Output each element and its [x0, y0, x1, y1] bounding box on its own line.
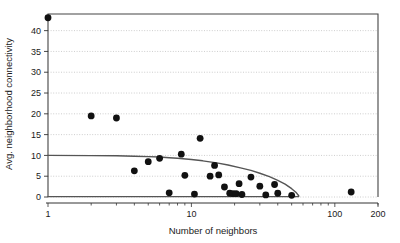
scatter-plot: 110100200 0510152025303540 Number of nei…: [0, 0, 400, 243]
x-tick-label-100: 100: [327, 209, 342, 219]
x-tick-label-10: 10: [186, 209, 196, 219]
data-point: [178, 151, 185, 158]
y-tick-label-5: 5: [36, 171, 41, 181]
data-point: [256, 183, 263, 190]
data-point: [221, 184, 228, 191]
data-point: [113, 115, 120, 122]
data-point: [211, 162, 218, 169]
data-point: [88, 113, 95, 120]
data-point: [181, 172, 188, 179]
plot-background: [0, 0, 400, 243]
chart-figure: 110100200 0510152025303540 Number of nei…: [0, 0, 400, 243]
x-tick-label-200: 200: [370, 209, 385, 219]
x-axis-title: Number of neighbors: [169, 225, 258, 236]
data-point: [131, 167, 138, 174]
data-point: [271, 181, 278, 188]
y-tick-label-0: 0: [36, 192, 41, 202]
y-axis-title: Avg. neighborhood connectivity: [3, 38, 14, 170]
data-point: [191, 191, 198, 198]
data-point: [348, 189, 355, 196]
y-tick-label-15: 15: [31, 130, 41, 140]
y-tick-label-20: 20: [31, 109, 41, 119]
data-point: [215, 172, 222, 179]
data-point: [45, 14, 52, 21]
y-tick-label-40: 40: [31, 26, 41, 36]
data-point: [262, 192, 269, 199]
data-point: [248, 174, 255, 181]
y-tick-label-30: 30: [31, 67, 41, 77]
data-point: [233, 190, 240, 197]
data-point: [239, 191, 246, 198]
data-point: [166, 189, 173, 196]
y-tick-label-25: 25: [31, 88, 41, 98]
data-point: [207, 173, 214, 180]
y-tick-label-35: 35: [31, 47, 41, 57]
x-tick-label-1: 1: [45, 209, 50, 219]
data-point: [274, 190, 281, 197]
data-point: [156, 155, 163, 162]
data-point: [288, 192, 295, 199]
y-tick-label-10: 10: [31, 151, 41, 161]
data-point: [145, 158, 152, 165]
data-point: [197, 135, 204, 142]
data-point: [236, 180, 243, 187]
